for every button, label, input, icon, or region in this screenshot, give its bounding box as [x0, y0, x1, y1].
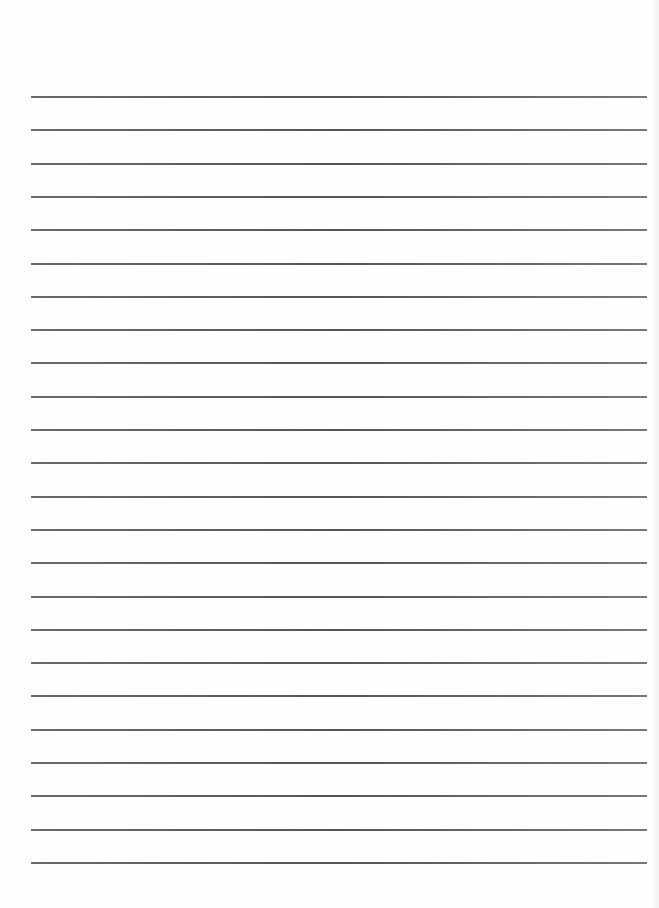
ruled-line	[31, 163, 647, 165]
ruled-line	[31, 629, 647, 631]
ruled-line	[31, 362, 647, 364]
ruled-line	[31, 496, 647, 498]
ruled-line	[31, 329, 647, 331]
ruled-line	[31, 562, 647, 564]
ruled-line	[31, 96, 647, 98]
ruled-line	[31, 396, 647, 398]
ruled-line	[31, 462, 647, 464]
ruled-line	[31, 662, 647, 664]
ruled-line	[31, 762, 647, 764]
ruled-line	[31, 729, 647, 731]
ruled-line	[31, 596, 647, 598]
ruled-line	[31, 129, 647, 131]
ruled-line	[31, 196, 647, 198]
page-edge-shadow	[651, 0, 659, 908]
ruled-line	[31, 529, 647, 531]
ruled-line	[31, 795, 647, 797]
ruled-line	[31, 829, 647, 831]
ruled-line	[31, 263, 647, 265]
ruled-line	[31, 862, 647, 864]
ruled-line	[31, 229, 647, 231]
ruled-line	[31, 695, 647, 697]
ruled-line	[31, 429, 647, 431]
ruled-line	[31, 296, 647, 298]
